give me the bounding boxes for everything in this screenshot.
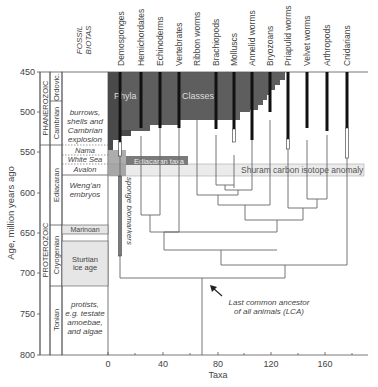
sponge-biomarkers-label: sponge biomarkers <box>125 177 134 245</box>
y-tick-700: 700 <box>20 268 35 278</box>
svg-text:burrows,: burrows, <box>70 108 101 117</box>
y-axis-label: Age, million years ago <box>5 166 16 259</box>
y-tick-labels: 450 500 550 600 650 700 750 800 <box>20 67 35 360</box>
lineage-molluscs: Molluscs <box>229 33 239 66</box>
classes-label: Classes <box>182 91 215 101</box>
evolution-timeline-diagram: 450 500 550 600 650 700 750 800 Age, mil… <box>0 0 378 387</box>
biota-wengan-embryos: Weng'an embryos <box>69 181 101 199</box>
phylogenetic-tree <box>120 120 347 355</box>
lineage-arthropods: Arthropods <box>322 24 332 66</box>
svg-text:Weng'an: Weng'an <box>69 181 101 190</box>
biota-white-sea: White Sea <box>68 155 103 164</box>
y-tick-550: 550 <box>20 147 35 157</box>
svg-text:explosion: explosion <box>68 135 102 144</box>
biota-marinoan: Marinoan <box>70 226 99 233</box>
lineage-vertebrates: Vertebrates <box>174 23 184 66</box>
y-tick-750: 750 <box>20 309 35 319</box>
svg-text:e.g. testate: e.g. testate <box>65 309 105 318</box>
x-axis-label: Taxa <box>208 370 227 380</box>
svg-text:Cambrian: Cambrian <box>68 126 103 135</box>
lineage-velvet-worms: Velvet worms <box>302 15 312 66</box>
svg-text:amoebae,: amoebae, <box>67 318 103 327</box>
svg-text:shells and: shells and <box>67 117 104 126</box>
lineage-priapulid-worms: Priapulid worms <box>283 6 293 66</box>
x-ticks <box>108 352 352 355</box>
y-tick-800: 800 <box>20 350 35 360</box>
period-tonian: Tonian <box>52 309 61 331</box>
lineage-annelid-worms: Annelid worms <box>247 10 257 66</box>
lineage-demosponges: Demosponges <box>116 11 126 66</box>
svg-text:120: 120 <box>263 359 278 369</box>
y-ticks <box>37 72 40 355</box>
svg-text:160: 160 <box>317 359 332 369</box>
biota-avalon: Avalon <box>73 165 97 174</box>
lineage-echinoderms: Echinoderms <box>155 16 165 66</box>
phyla-classes-area: Phyla Classes <box>108 72 285 150</box>
ediacaran-taxa-block <box>108 150 126 176</box>
phyla-label: Phyla <box>114 91 137 101</box>
y-tick-600: 600 <box>20 188 35 198</box>
lineage-labels: Demosponges Hemichordates Echinoderms Ve… <box>116 6 352 66</box>
period-ordovician: Ordovic. <box>52 73 61 101</box>
svg-text:40: 40 <box>158 359 168 369</box>
svg-text:80: 80 <box>213 359 223 369</box>
svg-text:ice age: ice age <box>73 263 97 272</box>
eon-proterozoic: PROTEROZOIC <box>41 222 50 278</box>
period-cryogenian: Cryogenian <box>52 236 61 274</box>
lineage-brachiopods: Brachiopods <box>211 19 221 66</box>
shuram-label: Shuram carbon isotope anomaly <box>241 165 364 175</box>
svg-text:protists,: protists, <box>70 300 99 309</box>
ediacaran-taxa-label: Ediacaran taxa <box>134 157 185 166</box>
lineage-hemichordates: Hemichordates <box>136 9 146 66</box>
y-axis: 450 500 550 600 650 700 750 800 Age, mil… <box>5 67 40 360</box>
biota-protists: protists, e.g. testate amoebae, and alga… <box>65 300 105 336</box>
svg-text:FOSSIL: FOSSIL <box>75 26 84 54</box>
svg-text:BIOTAS: BIOTAS <box>84 25 93 54</box>
y-tick-650: 650 <box>20 228 35 238</box>
lineage-bryozoans: Bryozoans <box>265 26 275 66</box>
svg-text:0: 0 <box>105 359 110 369</box>
sponge-biomarkers-bar <box>119 176 122 256</box>
svg-text:and algae: and algae <box>67 327 103 336</box>
y-tick-450: 450 <box>20 67 35 77</box>
lineage-ribbon-worms: Ribbon worms <box>192 12 202 66</box>
biota-sturtian: Sturtian ice age <box>72 255 98 272</box>
svg-text:embryos: embryos <box>70 190 101 199</box>
lca-annotation: Last common ancestor of all animals (LCA… <box>210 285 310 316</box>
fossil-biotas-header: FOSSIL BIOTAS <box>75 25 93 54</box>
biota-nama: Nama <box>75 146 95 155</box>
period-ediacaran: Ediacaran <box>52 168 61 202</box>
x-tick-labels: 0 40 80 120 160 <box>105 359 332 369</box>
period-cambrian: Cambrian <box>52 107 61 140</box>
x-axis: 0 40 80 120 160 Taxa <box>105 352 368 380</box>
y-tick-500: 500 <box>20 107 35 117</box>
lineage-cnidarians: Cnidarians <box>342 25 352 66</box>
eon-phanerozoic: PHANEROZOIC <box>41 80 50 136</box>
svg-text:of all animals (LCA): of all animals (LCA) <box>234 307 304 316</box>
uncertain-range-bars <box>119 128 349 158</box>
biota-cambrian-explosion: burrows, shells and Cambrian explosion <box>67 108 104 144</box>
svg-text:Last common ancestor: Last common ancestor <box>229 298 310 307</box>
